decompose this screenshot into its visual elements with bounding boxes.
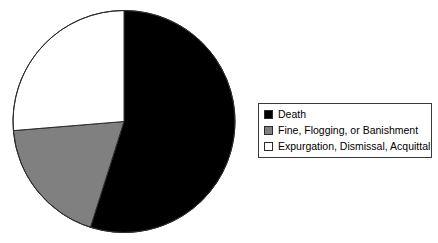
pie-chart-figure: Death Fine, Flogging, or Banishment Expu… bbox=[0, 0, 438, 243]
legend-label-expurgation-dismissal-acquittal: Expurgation, Dismissal, Acquittal bbox=[278, 141, 430, 152]
pie-chart bbox=[0, 0, 250, 243]
legend-item-fine-flogging-banishment[interactable]: Fine, Flogging, or Banishment bbox=[264, 123, 427, 138]
legend-swatch-fine-flogging-banishment bbox=[264, 126, 273, 135]
legend-swatch-expurgation-dismissal-acquittal bbox=[264, 142, 273, 151]
pie-slice-expurgation-dismissal-acquittal[interactable] bbox=[13, 10, 124, 130]
pie-slices bbox=[13, 10, 235, 232]
legend-label-fine-flogging-banishment: Fine, Flogging, or Banishment bbox=[278, 125, 418, 136]
legend-swatch-death bbox=[264, 110, 273, 119]
chart-legend: Death Fine, Flogging, or Banishment Expu… bbox=[258, 103, 432, 158]
legend-item-death[interactable]: Death bbox=[264, 107, 427, 122]
legend-label-death: Death bbox=[278, 109, 306, 120]
legend-item-expurgation-dismissal-acquittal[interactable]: Expurgation, Dismissal, Acquittal bbox=[264, 139, 427, 154]
